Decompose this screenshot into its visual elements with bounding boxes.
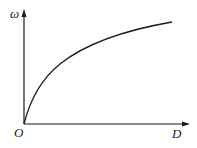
y-axis-label: ω: [10, 6, 19, 21]
origin-label: O: [14, 125, 24, 140]
diagram-canvas: ω O D: [0, 0, 197, 148]
x-axis-label: D: [171, 126, 182, 141]
curve-line: [24, 22, 172, 124]
x-axis-arrow-icon: [182, 122, 190, 127]
y-axis-arrow-icon: [22, 9, 27, 17]
